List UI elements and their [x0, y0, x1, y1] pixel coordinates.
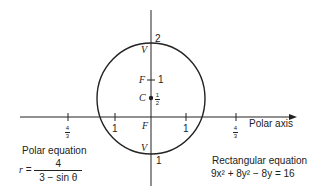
polar-axis-label: Polar axis [249, 119, 293, 129]
polar-numerator: 4 [56, 158, 62, 169]
polar-denominator: 3 − sin θ [39, 172, 77, 183]
center-label: C [139, 93, 146, 103]
polar-equation: r = 4 3 − sin θ [19, 158, 82, 183]
polar-equals: = [26, 164, 32, 175]
tick-den: 3 [66, 133, 69, 139]
rectangular-equation: 9x² + 8y² − 8y = 16 [211, 168, 295, 179]
focus-origin-label: F [142, 121, 148, 131]
tick-num: 4 [66, 125, 69, 131]
polar-equation-title: Polar equation [22, 145, 87, 156]
top-value-label: 2 [155, 34, 161, 44]
center-value-num: 1 [156, 92, 159, 98]
tick-label-neg-four-thirds: 4 3 [65, 125, 70, 139]
tick-label-one: 1 [183, 124, 189, 134]
tick-den: 3 [234, 133, 237, 139]
tick-num: 4 [234, 125, 237, 131]
vertex-bottom-label: V [141, 143, 147, 153]
focus-upper-label: F [139, 75, 145, 85]
center-value-den: 2 [156, 100, 159, 106]
center-value-fraction: 1 2 [155, 92, 160, 106]
tick-label-four-thirds: 4 3 [233, 125, 238, 139]
tick-label-neg-one: 1 [112, 124, 118, 134]
rectangular-equation-title: Rectangular equation [212, 155, 307, 166]
center-point [149, 96, 153, 100]
vertex-top-label: V [141, 45, 147, 55]
polar-lhs: r [19, 164, 23, 175]
focus-upper-value: 1 [158, 75, 164, 85]
polar-fraction: 4 3 − sin θ [34, 158, 82, 183]
bottom-value-label: 1 [156, 156, 162, 166]
